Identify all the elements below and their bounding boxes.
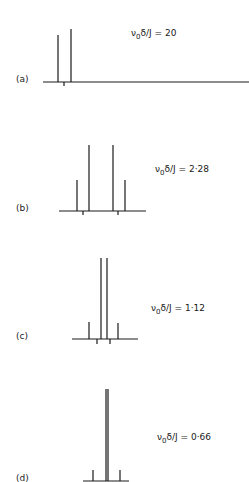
parameter-label-a: ν0δ/J = 20 (131, 28, 176, 41)
parameter-label-b: ν0δ/J = 2·28 (155, 164, 209, 177)
panel-label-d: (d) (16, 473, 29, 482)
spectrum-d (83, 389, 129, 481)
panel-label-a: (a) (16, 74, 29, 84)
panel-label-c: (c) (16, 331, 28, 341)
parameter-label-d: ν0δ/J = 0·66 (157, 432, 211, 445)
spectrum-c (72, 258, 138, 344)
parameter-label-c: ν0δ/J = 1·12 (151, 303, 205, 316)
spectrum-b (59, 145, 146, 215)
spectra-figure (0, 0, 249, 482)
panel-label-b: (b) (16, 203, 29, 213)
